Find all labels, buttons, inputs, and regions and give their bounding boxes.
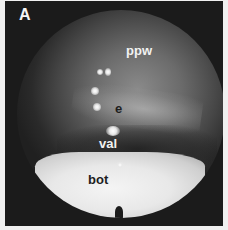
panel-letter: A bbox=[19, 7, 31, 23]
light-reflection bbox=[91, 87, 99, 95]
label-bot: bot bbox=[88, 173, 108, 186]
light-reflection bbox=[93, 103, 101, 111]
label-e: e bbox=[115, 102, 122, 115]
endoscopic-photo: A ppw e val bot bbox=[5, 1, 223, 226]
light-reflection bbox=[97, 69, 103, 75]
figure-frame: A ppw e val bot bbox=[0, 0, 228, 230]
light-reflection bbox=[116, 162, 124, 168]
label-ppw: ppw bbox=[126, 44, 152, 57]
label-val: val bbox=[99, 137, 117, 150]
light-reflection bbox=[106, 126, 120, 136]
notch bbox=[115, 206, 123, 218]
light-reflection bbox=[105, 68, 111, 76]
